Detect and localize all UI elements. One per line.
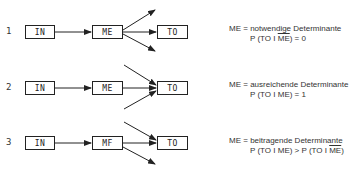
arrow-in-from-top-3 [124,122,156,140]
arrow-in-from-bottom-2 [124,91,156,109]
node-input: IN [25,25,55,39]
node-mediator: ME [92,81,123,95]
definition-line: ME = notwendige Determinante [229,24,341,34]
arrow-mf-down-3 [123,147,155,164]
node-input: IN [25,136,55,150]
node-input: IN [25,81,55,95]
formula-suffix: ) = 0 [290,34,306,43]
formula-prefix: P (TO I [250,34,278,43]
node-target: TO [157,25,188,39]
definition-text: beitragende Determinante [250,136,343,145]
formula: P (TO I ME) > P (TO I ME) [250,146,344,155]
definition-lhs: ME = [229,80,248,89]
definition-text: ausreichende Determinante [250,80,348,89]
node-mediator: ME [92,25,123,39]
formula-prefix: P (TO I ME) > P (TO I [250,146,329,155]
arrow-me-down-1 [123,34,155,51]
formula-overlined: ME [278,34,290,43]
definition-lhs: ME = [229,24,248,33]
row-number: 1 [6,26,11,36]
node-target: TO [157,81,188,95]
formula-overlined: ME [329,146,341,155]
row-number: 2 [6,82,11,92]
definition-line: ME = ausreichende Determinante [229,80,348,90]
definition-line: ME = beitragende Determinante [229,136,343,146]
formula: P (TO I ME) = 1 [250,90,306,99]
formula: P (TO I ME) = 0 [250,34,306,43]
node-mediator: MF [92,136,123,150]
arrow-in-from-top-2 [124,65,156,85]
formula-suffix: ) [341,146,344,155]
definition-lhs: ME = [229,136,248,145]
node-target: TO [157,136,188,150]
definition-text: notwendige Determinante [250,24,341,33]
row-number: 3 [6,137,11,147]
arrow-me-up-1 [123,10,155,30]
